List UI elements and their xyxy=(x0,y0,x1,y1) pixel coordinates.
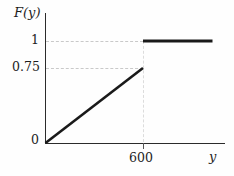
x-axis-label: y xyxy=(209,150,216,163)
x-tick-label-600: 600 xyxy=(129,152,153,165)
curve-group xyxy=(0,0,234,176)
y-tick-label-075: 0.75 xyxy=(12,61,40,74)
cdf-step-chart: F(y) y 1 0.75 0 600 xyxy=(0,0,234,176)
y-axis-label: F(y) xyxy=(14,6,41,19)
y-tick-label-1: 1 xyxy=(31,34,39,47)
origin-label-0: 0 xyxy=(31,134,39,147)
curve-segment-ramp xyxy=(46,68,144,143)
